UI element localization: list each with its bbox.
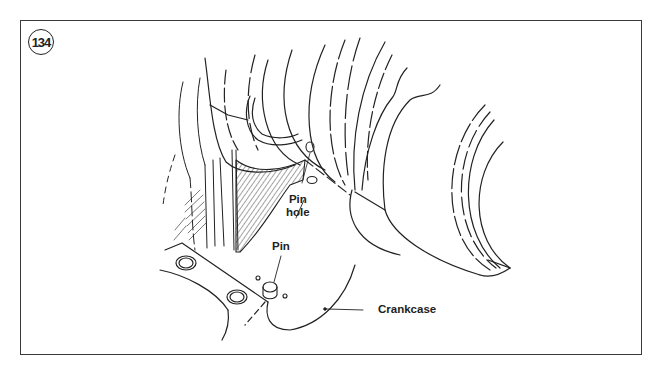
- pin-hole-detail: [302, 142, 350, 195]
- crankcase-illustration: [0, 0, 661, 378]
- main-bearing-shells: [263, 38, 480, 275]
- crankcase-leader: [327, 309, 363, 310]
- pin-hole-label-line2: hole: [286, 206, 310, 219]
- pin-label: Pin: [272, 240, 290, 253]
- crankcase-flange: [160, 243, 355, 340]
- housing-left-lines: [163, 78, 238, 250]
- pin-leader: [274, 256, 281, 282]
- crankcase-label: Crankcase: [378, 303, 436, 316]
- pin-hole-label-line1: Pin: [286, 193, 310, 206]
- crank-web: [205, 55, 302, 172]
- pin-hole-label: Pin hole: [286, 193, 310, 219]
- shading-lines-left: [174, 190, 206, 240]
- right-journal-rings: [452, 105, 510, 276]
- pin-detail: [256, 276, 287, 299]
